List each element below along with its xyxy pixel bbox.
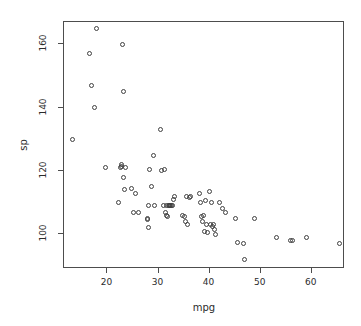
data-point — [136, 210, 141, 215]
data-point — [121, 175, 126, 180]
data-point — [213, 232, 218, 237]
data-point — [120, 42, 125, 47]
data-point — [217, 200, 222, 205]
x-tick-mark — [106, 268, 107, 273]
data-point — [121, 89, 126, 94]
x-axis-title: mpg — [193, 302, 215, 313]
data-point — [201, 213, 206, 218]
x-tick-mark — [209, 268, 210, 273]
y-tick-mark — [58, 170, 63, 171]
data-point — [197, 191, 202, 196]
data-point — [235, 240, 240, 245]
scatter-plot-figure: 2030405060 100120140160 mpg sp — [0, 0, 361, 326]
data-point — [92, 105, 97, 110]
data-point — [129, 186, 134, 191]
data-point — [146, 225, 151, 230]
data-point — [146, 203, 151, 208]
data-point — [209, 200, 214, 205]
x-tick-label: 30 — [152, 277, 163, 287]
x-tick-label: 60 — [305, 277, 316, 287]
x-tick-mark — [260, 268, 261, 273]
data-point — [133, 191, 138, 196]
data-point — [205, 230, 210, 235]
x-tick-label: 20 — [101, 277, 112, 287]
data-point — [185, 222, 190, 227]
data-point — [223, 210, 228, 215]
data-point — [241, 241, 246, 246]
data-point — [94, 26, 99, 31]
y-tick-mark — [58, 43, 63, 44]
data-point — [145, 217, 150, 222]
data-point — [172, 194, 177, 199]
data-point — [170, 203, 175, 208]
data-point — [290, 238, 295, 243]
data-point — [158, 127, 163, 132]
data-point — [252, 216, 257, 221]
y-tick-label: 100 — [38, 225, 48, 242]
data-point — [147, 167, 152, 172]
data-point — [149, 184, 154, 189]
data-point — [207, 189, 212, 194]
x-tick-mark — [311, 268, 312, 273]
data-point — [274, 235, 279, 240]
data-point — [337, 241, 342, 246]
data-point — [152, 203, 157, 208]
y-tick-label: 120 — [38, 161, 48, 178]
data-point — [162, 167, 167, 172]
x-tick-mark — [158, 268, 159, 273]
data-point — [151, 153, 156, 158]
data-point — [188, 194, 193, 199]
y-tick-mark — [58, 107, 63, 108]
data-points-layer — [64, 22, 343, 267]
data-point — [70, 137, 75, 142]
data-point — [304, 235, 309, 240]
y-tick-mark — [58, 233, 63, 234]
data-point — [165, 214, 170, 219]
data-point — [87, 51, 92, 56]
data-point — [116, 200, 121, 205]
x-tick-label: 40 — [203, 277, 214, 287]
plot-area-frame — [63, 21, 344, 268]
y-axis-title: sp — [18, 139, 29, 151]
data-point — [103, 165, 108, 170]
x-tick-label: 50 — [254, 277, 265, 287]
data-point — [203, 198, 208, 203]
data-point — [233, 216, 238, 221]
data-point — [89, 83, 94, 88]
y-tick-label: 140 — [38, 98, 48, 115]
data-point — [242, 257, 247, 262]
data-point — [123, 165, 128, 170]
data-point — [122, 187, 127, 192]
y-tick-label: 160 — [38, 35, 48, 52]
